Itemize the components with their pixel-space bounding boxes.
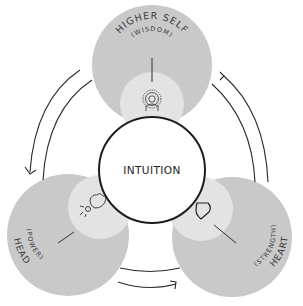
arrow-heart-to-higher-self [212,72,268,182]
center-label: INTUITION [123,164,180,176]
arrow-higher-self-to-head [25,70,92,180]
arrow-head-to-heart [118,268,180,289]
intuition-cycle-diagram: INTUITION HIGHER SELF (WISDOM) HEAD (POW… [0,0,303,306]
